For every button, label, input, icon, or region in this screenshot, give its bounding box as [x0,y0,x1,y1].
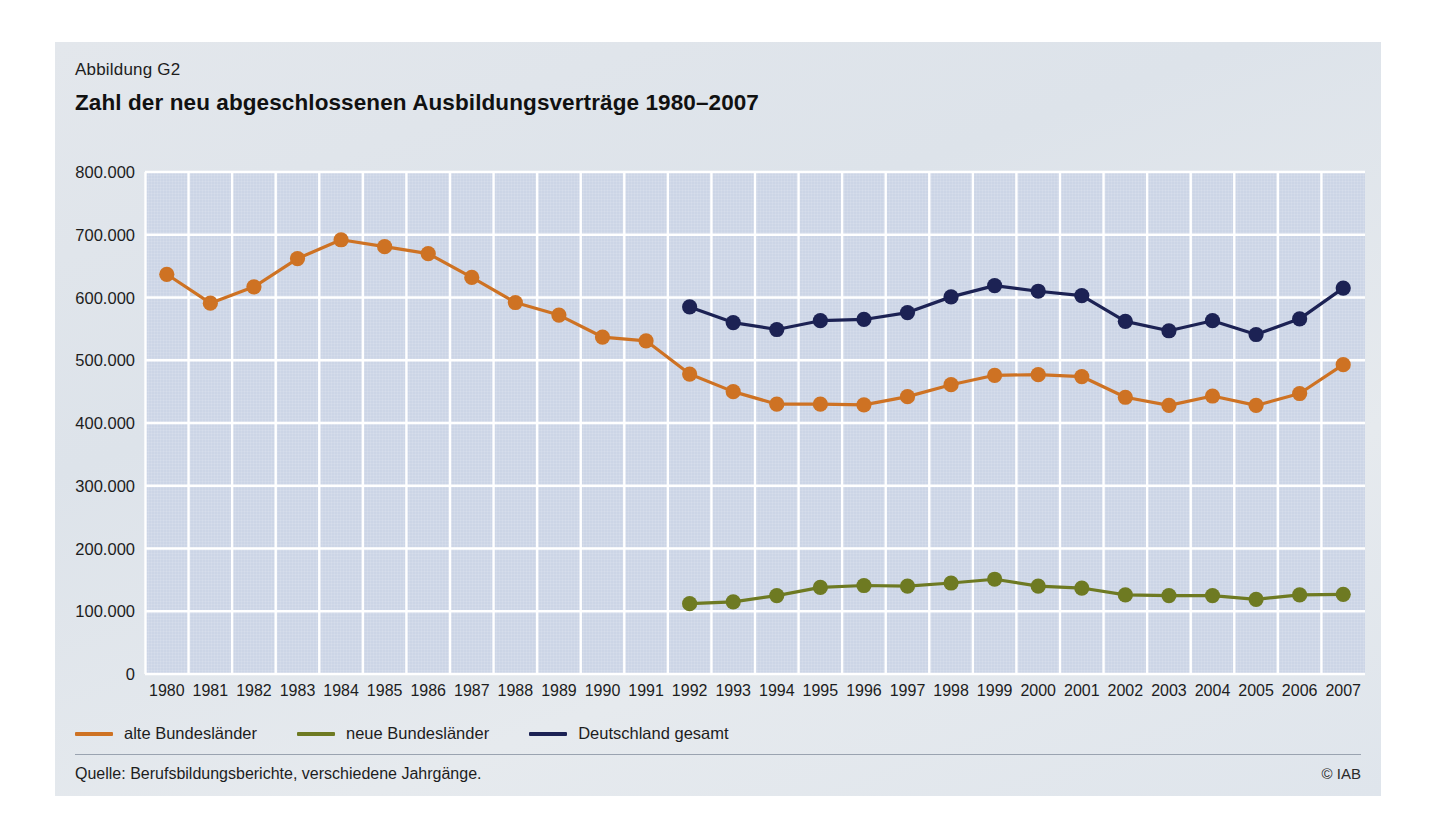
data-point [987,368,1002,383]
x-axis-tick-1981: 1981 [193,682,229,700]
x-axis-tick-1998: 1998 [933,682,969,700]
x-axis-tick-2000: 2000 [1020,682,1056,700]
x-axis-tick-1999: 1999 [977,682,1013,700]
x-axis-tick-2001: 2001 [1064,682,1100,700]
x-axis-tick-1997: 1997 [890,682,926,700]
data-point [1161,398,1176,413]
x-axis-tick-1985: 1985 [367,682,403,700]
x-axis-tick-1994: 1994 [759,682,795,700]
copyright-label: © IAB [1322,765,1361,782]
x-axis-tick-1982: 1982 [236,682,272,700]
data-point [246,279,261,294]
data-point [682,299,697,314]
data-point [1248,398,1263,413]
data-point [551,307,566,322]
series-lines [145,172,1365,674]
x-axis-tick-1992: 1992 [672,682,708,700]
data-point [595,329,610,344]
y-axis-tick-labels: 0100.000200.000300.000400.000500.000600.… [55,172,135,674]
figure-label: Abbildung G2 [75,60,180,80]
data-point [769,322,784,337]
y-axis-tick-0: 0 [126,665,135,684]
data-point [1205,388,1220,403]
data-point [1205,588,1220,603]
data-point [1292,587,1307,602]
data-point [726,315,741,330]
data-point [1336,280,1351,295]
data-point [508,295,523,310]
legend-swatch-icon [529,732,567,736]
data-point [856,397,871,412]
x-axis-tick-1991: 1991 [628,682,664,700]
x-axis-tick-labels: 1980198119821983198419851986198719881989… [145,682,1365,708]
x-axis-tick-1993: 1993 [715,682,751,700]
data-point [900,305,915,320]
x-axis-tick-1983: 1983 [280,682,316,700]
data-point [1161,323,1176,338]
x-axis-tick-1984: 1984 [323,682,359,700]
data-point [1205,313,1220,328]
data-point [813,397,828,412]
legend-label: neue Bundesländer [346,724,489,743]
data-point [1292,386,1307,401]
data-point [1031,579,1046,594]
source-note: Quelle: Berufsbildungsberichte, verschie… [75,765,481,783]
data-point [856,312,871,327]
data-point [377,239,392,254]
x-axis-tick-2004: 2004 [1195,682,1231,700]
data-point [1118,587,1133,602]
x-axis-tick-2007: 2007 [1325,682,1361,700]
y-axis-tick-700000: 700.000 [75,225,135,244]
x-axis-tick-1990: 1990 [585,682,621,700]
data-point [1031,284,1046,299]
series-line [690,286,1344,335]
data-point [943,575,958,590]
plot-wrap [145,172,1365,674]
data-point [1248,592,1263,607]
y-axis-tick-300000: 300.000 [75,476,135,495]
legend-item-3[interactable]: Deutschland gesamt [529,724,728,743]
data-point [1074,288,1089,303]
data-point [813,580,828,595]
series-line [690,579,1344,603]
data-point [1292,311,1307,326]
legend-swatch-icon [297,732,335,736]
legend-label: Deutschland gesamt [578,724,728,743]
data-point [421,246,436,261]
legend-item-2[interactable]: neue Bundesländer [297,724,489,743]
data-point [769,397,784,412]
data-point [987,572,1002,587]
y-axis-tick-100000: 100.000 [75,602,135,621]
data-point [856,578,871,593]
x-axis-tick-1989: 1989 [541,682,577,700]
data-point [900,389,915,404]
x-axis-tick-2006: 2006 [1282,682,1318,700]
y-axis-tick-500000: 500.000 [75,351,135,370]
data-point [1031,367,1046,382]
data-point [1336,357,1351,372]
data-point [203,296,218,311]
x-axis-tick-1996: 1996 [846,682,882,700]
x-axis-tick-2005: 2005 [1238,682,1274,700]
x-axis-tick-1980: 1980 [149,682,185,700]
legend-item-1[interactable]: alte Bundesländer [75,724,257,743]
chart-legend: alte Bundesländerneue BundesländerDeutsc… [75,724,729,743]
data-point [1074,369,1089,384]
data-point [290,251,305,266]
data-point [333,232,348,247]
figure-card: Abbildung G2 Zahl der neu abgeschlossene… [55,42,1381,796]
data-point [1161,588,1176,603]
data-point [943,377,958,392]
data-point [1118,390,1133,405]
y-axis-tick-800000: 800.000 [75,163,135,182]
data-point [1336,587,1351,602]
legend-swatch-icon [75,732,113,736]
data-point [1074,580,1089,595]
figure-title: Zahl der neu abgeschlossenen Ausbildungs… [75,90,759,116]
data-point [943,289,958,304]
data-point [682,366,697,381]
x-axis-tick-1987: 1987 [454,682,490,700]
x-axis-tick-1988: 1988 [498,682,534,700]
data-point [813,313,828,328]
data-point [726,594,741,609]
